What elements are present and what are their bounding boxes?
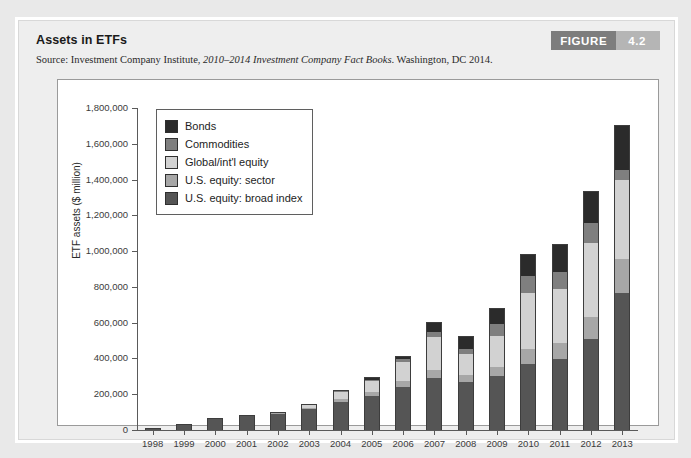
bar-segment[interactable] (552, 272, 568, 289)
y-axis-tick-label: 800,000 (58, 281, 128, 292)
bar-segment[interactable] (458, 336, 474, 349)
x-axis-tick (434, 430, 435, 435)
figure-source: Source: Investment Company Institute, 20… (36, 54, 493, 65)
y-axis-tick-label: 1,200,000 (58, 209, 128, 220)
bar-segment[interactable] (489, 336, 505, 367)
chart-plot-area: ETF assets ($ million) 0200,000400,00060… (57, 79, 659, 426)
bar-segment[interactable] (333, 399, 349, 402)
bar-segment[interactable] (614, 180, 630, 259)
bar-segment[interactable] (552, 289, 568, 343)
bar-segment[interactable] (583, 191, 599, 223)
source-prefix: Source: Investment Company Institute, (36, 54, 200, 65)
y-axis-tick-label: 200,000 (58, 388, 128, 399)
bar-segment[interactable] (207, 418, 223, 419)
bar-segment[interactable] (395, 356, 411, 360)
x-axis-tick (466, 430, 467, 435)
bar-stack[interactable] (395, 108, 411, 430)
bar-stack[interactable] (489, 108, 505, 430)
bar-segment[interactable] (395, 387, 411, 430)
bar-segment[interactable] (520, 254, 536, 276)
bar-segment[interactable] (364, 396, 380, 430)
figure-card: FIGURE 4.2 Assets in ETFs Source: Invest… (18, 20, 675, 440)
bar-segment[interactable] (520, 349, 536, 364)
bar-segment[interactable] (614, 293, 630, 430)
bar-segment[interactable] (239, 415, 255, 416)
x-axis-tick (528, 430, 529, 435)
bar-segment[interactable] (583, 317, 599, 338)
figure-badge-number: 4.2 (616, 31, 660, 50)
bar-segment[interactable] (270, 413, 286, 414)
bar-segment[interactable] (552, 244, 568, 273)
bar-segment[interactable] (364, 380, 380, 381)
bar-segment[interactable] (583, 223, 599, 243)
bar-segment[interactable] (426, 322, 442, 332)
bar-segment[interactable] (614, 125, 630, 170)
bar-segment[interactable] (301, 405, 317, 408)
y-axis-tick-label: 1,400,000 (58, 174, 128, 185)
bar-segment[interactable] (333, 390, 349, 391)
x-axis-tick (560, 430, 561, 435)
bar-segment[interactable] (301, 404, 317, 405)
bar-segment[interactable] (239, 416, 255, 430)
bar-segment[interactable] (364, 380, 380, 392)
legend-swatch-icon (165, 138, 178, 151)
bar-segment[interactable] (426, 332, 442, 337)
bar-segment[interactable] (301, 408, 317, 409)
bar-segment[interactable] (333, 402, 349, 430)
legend-item[interactable]: Global/int'l equity (165, 153, 302, 171)
bar-segment[interactable] (364, 392, 380, 396)
y-axis-tick-label: 600,000 (58, 317, 128, 328)
legend-item[interactable]: Bonds (165, 117, 302, 135)
bar-stack[interactable] (614, 108, 630, 430)
bar-segment[interactable] (270, 414, 286, 430)
x-axis-tick (372, 430, 373, 435)
bar-segment[interactable] (426, 378, 442, 430)
bar-segment[interactable] (583, 243, 599, 317)
bar-segment[interactable] (364, 377, 380, 380)
bar-stack[interactable] (333, 108, 349, 430)
bar-stack[interactable] (520, 108, 536, 430)
bar-segment[interactable] (207, 419, 223, 430)
bar-segment[interactable] (520, 276, 536, 293)
bar-segment[interactable] (458, 375, 474, 382)
bar-segment[interactable] (426, 337, 442, 369)
legend-item[interactable]: U.S. equity: sector (165, 171, 302, 189)
bar-segment[interactable] (583, 339, 599, 430)
y-axis-tick-label: 400,000 (58, 352, 128, 363)
bar-segment[interactable] (552, 359, 568, 430)
x-axis-tick (622, 430, 623, 435)
bar-segment[interactable] (270, 412, 286, 413)
bar-segment[interactable] (489, 324, 505, 336)
bar-segment[interactable] (426, 370, 442, 379)
x-axis-tick-label: 2013 (602, 438, 642, 449)
bar-segment[interactable] (520, 293, 536, 348)
bar-segment[interactable] (458, 349, 474, 354)
bar-segment[interactable] (614, 170, 630, 181)
bar-segment[interactable] (614, 259, 630, 293)
legend-item[interactable]: Commodities (165, 135, 302, 153)
bar-segment[interactable] (333, 391, 349, 392)
bar-segment[interactable] (333, 392, 349, 399)
bar-stack[interactable] (426, 108, 442, 430)
bar-segment[interactable] (395, 359, 411, 362)
bar-segment[interactable] (520, 364, 536, 430)
bar-segment[interactable] (489, 308, 505, 324)
bar-stack[interactable] (583, 108, 599, 430)
bar-segment[interactable] (301, 409, 317, 430)
bar-stack[interactable] (458, 108, 474, 430)
bar-stack[interactable] (552, 108, 568, 430)
x-axis-tick (497, 430, 498, 435)
bar-segment[interactable] (489, 376, 505, 430)
bar-stack[interactable] (364, 108, 380, 430)
bar-segment[interactable] (395, 381, 411, 387)
bar-segment[interactable] (552, 343, 568, 359)
x-axis-tick (341, 430, 342, 435)
legend-item[interactable]: U.S. equity: broad index (165, 189, 302, 207)
bar-segment[interactable] (489, 367, 505, 376)
y-axis-tick-label: 1,000,000 (58, 245, 128, 256)
source-suffix: . Washington, DC 2014. (392, 54, 493, 65)
bar-segment[interactable] (458, 354, 474, 375)
bar-segment[interactable] (395, 362, 411, 382)
bar-segment[interactable] (458, 382, 474, 430)
legend-swatch-icon (165, 192, 178, 205)
